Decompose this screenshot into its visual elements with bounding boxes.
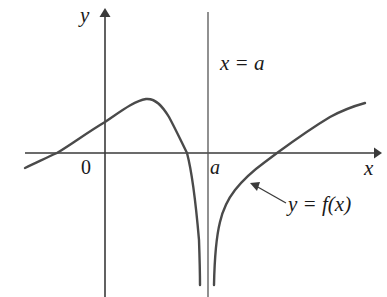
asymptote-equation-label: x = a bbox=[220, 53, 265, 74]
function-label-arrowhead bbox=[250, 182, 260, 191]
y-axis-label: y bbox=[80, 5, 89, 26]
x-axis-label: x bbox=[364, 158, 373, 179]
function-equation-label: y = f(x) bbox=[288, 194, 351, 215]
origin-label: 0 bbox=[81, 157, 91, 177]
x-axis-arrowhead bbox=[374, 148, 382, 159]
function-label-leader-line bbox=[256, 186, 286, 203]
graph-canvas bbox=[0, 0, 387, 297]
math-graph-figure: y x 0 a x = a y = f(x) bbox=[0, 0, 387, 297]
x-axis bbox=[25, 148, 382, 159]
asymptote-tick-label: a bbox=[210, 157, 220, 177]
function-curve-left-branch bbox=[25, 99, 200, 285]
function-label-leader bbox=[250, 182, 286, 203]
y-axis-arrowhead bbox=[100, 8, 111, 17]
